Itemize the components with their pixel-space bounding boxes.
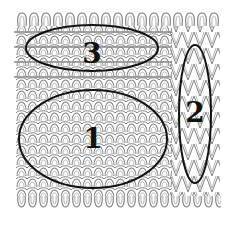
region-3-label: 3 [82, 40, 101, 68]
top-loop-row [16, 12, 220, 26]
region-1-label: 1 [83, 125, 102, 153]
bottom-loop-row [16, 196, 221, 208]
knit-fabric-diagram: 3 1 2 [0, 0, 237, 225]
region-2-label: 2 [185, 99, 204, 127]
